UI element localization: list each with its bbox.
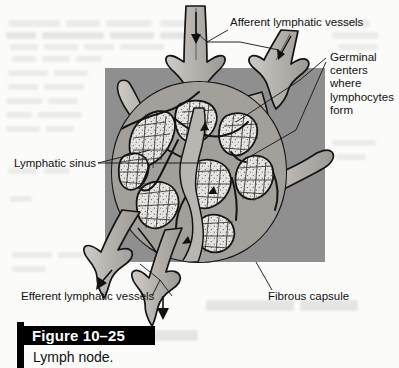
label-germinal-line-5: form: [330, 104, 399, 117]
caption-tick-mark: [17, 322, 24, 368]
label-afferent-lymphatic-vessels: Afferent lymphatic vessels: [230, 16, 363, 29]
leader-afferent: [196, 30, 279, 50]
figure-number-text: Figure 10–25: [24, 326, 155, 345]
figure-page: Afferent lymphatic vessels Germinal cent…: [0, 0, 399, 368]
label-germinal-line-4: lymphocytes: [330, 91, 399, 104]
label-germinal-line-1: Germinal: [330, 51, 399, 64]
label-efferent-lymphatic-vessels: Efferent lymphatic vessels: [21, 290, 154, 303]
label-lymphatic-sinus: Lymphatic sinus: [14, 157, 96, 170]
figure-number-banner: Figure 10–25: [24, 326, 155, 345]
figure-caption-text: Lymph node.: [33, 349, 113, 365]
label-germinal-line-2: centers: [330, 64, 399, 77]
label-fibrous-capsule: Fibrous capsule: [268, 290, 349, 303]
figure-caption-block: Figure 10–25 Lymph node.: [0, 322, 399, 368]
label-germinal-line-3: where: [330, 77, 399, 90]
label-germinal-centers: Germinal centers where lymphocytes form: [330, 51, 399, 117]
leader-fibrous: [256, 262, 272, 290]
